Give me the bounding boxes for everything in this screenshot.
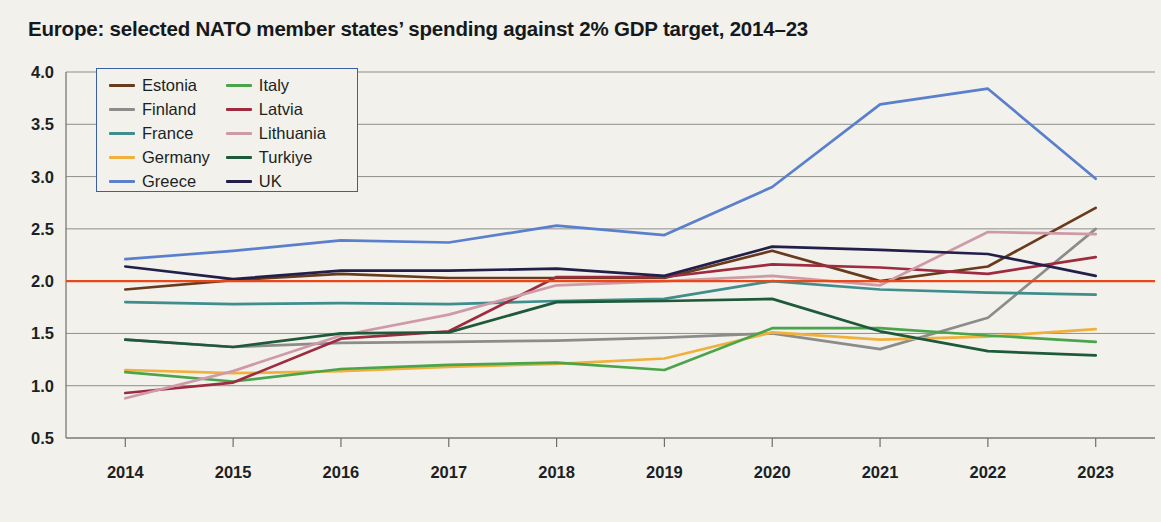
legend-item-france: France	[109, 123, 210, 144]
legend-swatch-turkiye	[226, 156, 252, 159]
legend-item-latvia: Latvia	[226, 99, 326, 120]
legend-label-italy: Italy	[259, 77, 289, 94]
y-axis-tick-label: 2.0	[31, 272, 54, 290]
y-axis-tick-label: 4.0	[31, 63, 54, 81]
legend-label-france: France	[142, 125, 193, 142]
legend-item-finland: Finland	[109, 99, 210, 120]
x-axis-tick-label: 2023	[1077, 463, 1114, 481]
legend-item-turkiye: Turkiye	[226, 147, 326, 168]
legend-swatch-greece	[109, 180, 135, 183]
legend-item-uk: UK	[226, 171, 326, 192]
y-axis-tick-label: 1.5	[31, 324, 54, 342]
legend-swatch-italy	[226, 84, 252, 87]
x-axis-tick-label: 2022	[970, 463, 1007, 481]
y-axis-tick-label: 3.0	[31, 168, 54, 186]
legend-label-latvia: Latvia	[259, 101, 303, 118]
legend-column-1: Estonia Finland France Germany Greece	[109, 75, 210, 192]
x-axis-tick-label: 2020	[754, 463, 791, 481]
legend-swatch-lithuania	[226, 132, 252, 135]
legend-swatch-estonia	[109, 84, 135, 87]
series-line-turkiye	[125, 299, 1095, 356]
legend-label-estonia: Estonia	[142, 77, 197, 94]
y-axis-tick-label: 1.0	[31, 377, 54, 395]
legend-column-2: Italy Latvia Lithuania Turkiye UK	[226, 75, 326, 192]
legend-item-italy: Italy	[226, 75, 326, 96]
x-axis-tick-label: 2018	[538, 463, 575, 481]
chart-legend: Estonia Finland France Germany Greece It…	[96, 68, 358, 192]
legend-swatch-latvia	[226, 108, 252, 111]
legend-columns: Estonia Finland France Germany Greece It…	[109, 75, 347, 192]
legend-swatch-germany	[109, 156, 135, 159]
legend-swatch-uk	[226, 180, 252, 183]
y-axis-tick-label: 0.5	[31, 429, 54, 447]
legend-label-germany: Germany	[142, 149, 210, 166]
legend-label-lithuania: Lithuania	[259, 125, 326, 142]
x-axis-tick-label: 2017	[430, 463, 467, 481]
legend-label-finland: Finland	[142, 101, 196, 118]
y-axis-tick-label: 2.5	[31, 220, 54, 238]
legend-label-greece: Greece	[142, 173, 196, 190]
legend-swatch-finland	[109, 108, 135, 111]
legend-item-estonia: Estonia	[109, 75, 210, 96]
x-axis-tick-label: 2016	[323, 463, 360, 481]
x-axis-tick-label: 2014	[107, 463, 145, 481]
legend-item-germany: Germany	[109, 147, 210, 168]
legend-item-greece: Greece	[109, 171, 210, 192]
legend-item-lithuania: Lithuania	[226, 123, 326, 144]
x-axis-tick-label: 2019	[646, 463, 683, 481]
legend-label-turkiye: Turkiye	[259, 149, 312, 166]
legend-swatch-france	[109, 132, 135, 135]
x-axis-tick-label: 2015	[215, 463, 252, 481]
x-axis-tick-label: 2021	[862, 463, 899, 481]
y-axis-tick-label: 3.5	[31, 115, 54, 133]
series-line-uk	[125, 247, 1095, 280]
legend-label-uk: UK	[259, 173, 282, 190]
